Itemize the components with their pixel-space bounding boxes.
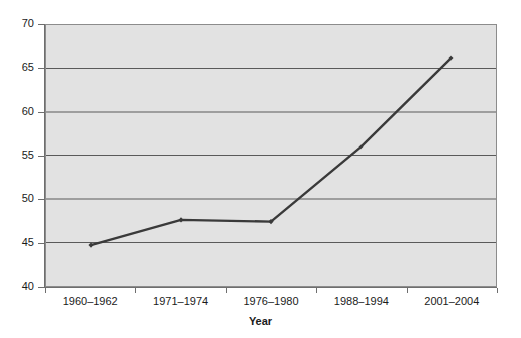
y-axis-tick-label-wrap: 70 bbox=[0, 18, 34, 29]
y-axis-tick bbox=[38, 24, 44, 25]
y-axis-tick bbox=[38, 156, 44, 157]
y-axis-tick-label: 60 bbox=[22, 106, 34, 117]
x-axis-tick-label: 1988–1994 bbox=[334, 295, 389, 307]
y-axis-tick-label-wrap: 60 bbox=[0, 106, 34, 117]
x-axis-tick bbox=[226, 288, 227, 293]
x-axis-tick-label: 1971–1974 bbox=[153, 295, 208, 307]
y-axis-tick-label: 65 bbox=[22, 62, 34, 73]
y-axis-tick bbox=[38, 243, 44, 244]
y-axis-tick-label-wrap: 65 bbox=[0, 62, 34, 73]
y-axis-tick bbox=[38, 287, 44, 288]
y-axis-tick-label-wrap: 55 bbox=[0, 150, 34, 161]
x-axis-tick bbox=[316, 288, 317, 293]
y-axis-tick bbox=[38, 199, 44, 200]
plot-area bbox=[45, 24, 497, 287]
y-axis-tick bbox=[38, 68, 44, 69]
y-axis-tick-label: 70 bbox=[22, 18, 34, 29]
x-axis-title: Year bbox=[0, 315, 521, 327]
x-axis-tick-label: 1976–1980 bbox=[243, 295, 298, 307]
y-axis-tick-label: 55 bbox=[22, 150, 34, 161]
y-axis-tick bbox=[38, 112, 44, 113]
data-series-layer bbox=[46, 25, 496, 286]
line-chart: 40455055606570 1960–19621971–19741976–19… bbox=[0, 0, 521, 338]
data-point-marker bbox=[178, 217, 183, 222]
y-axis-tick-label-wrap: 45 bbox=[0, 237, 34, 248]
x-axis-tick bbox=[45, 288, 46, 293]
y-axis-tick-label: 40 bbox=[22, 281, 34, 292]
x-axis-tick-label: 1960–1962 bbox=[63, 295, 118, 307]
x-axis-tick bbox=[497, 288, 498, 293]
y-axis-line bbox=[44, 24, 45, 288]
data-point-marker bbox=[88, 243, 93, 248]
series-line bbox=[91, 58, 451, 245]
y-axis-tick-label-wrap: 40 bbox=[0, 281, 34, 292]
y-axis-tick-label: 50 bbox=[22, 193, 34, 204]
x-axis-tick bbox=[407, 288, 408, 293]
x-axis-tick-label: 2001–2004 bbox=[424, 295, 479, 307]
x-axis-tick bbox=[135, 288, 136, 293]
y-axis-tick-label: 45 bbox=[22, 237, 34, 248]
x-axis-line bbox=[45, 287, 497, 288]
y-axis-tick-label-wrap: 50 bbox=[0, 193, 34, 204]
